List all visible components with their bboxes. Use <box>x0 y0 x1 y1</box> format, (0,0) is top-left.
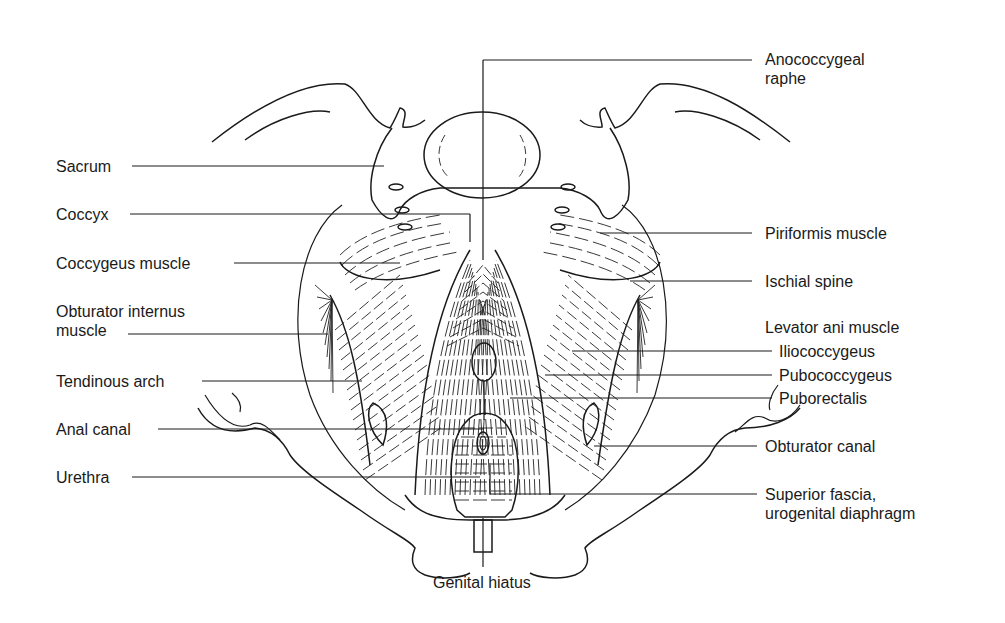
obturator-fiber <box>332 300 333 393</box>
label-iliococcygeus: Iliococcygeus <box>779 342 875 361</box>
label-superior-fascia: Superior fascia, urogenital diaphragm <box>765 485 915 523</box>
label-ischial-spine: Ischial spine <box>765 272 853 291</box>
levator-ani-fibers <box>315 260 655 495</box>
obturator-fiber <box>637 300 638 393</box>
iliococcygeus-fiber <box>532 395 608 450</box>
sacral-foramen <box>551 224 565 230</box>
label-genital-hiatus: Genital hiatus <box>433 573 531 592</box>
iliococcygeus-fiber <box>365 425 445 480</box>
label-coccygeus-muscle: Coccygeus muscle <box>56 254 190 273</box>
obturator-fiber <box>315 285 332 300</box>
label-anococcygeal-raphe: Anococcygeal raphe <box>765 50 865 88</box>
left-tendinous-arch <box>330 295 370 465</box>
iliococcygeus-fiber <box>538 375 612 430</box>
label-sacrum: Sacrum <box>56 157 111 176</box>
label-coccyx: Coccyx <box>56 205 108 224</box>
left-iliac-wing <box>212 84 425 142</box>
iliococcygeus-fiber <box>568 275 632 330</box>
iliococcygeus-fiber <box>523 425 602 480</box>
sacral-foramen <box>398 224 412 230</box>
right-iliac-wing-inner <box>675 111 760 140</box>
label-anal-canal: Anal canal <box>56 420 131 439</box>
label-levator-ani-muscle: Levator ani muscle <box>765 318 899 337</box>
iliococcygeus-fiber <box>359 395 436 450</box>
left-ligament-curve <box>232 393 241 412</box>
sacral-foramen <box>389 184 403 190</box>
iliococcygeus-fiber <box>565 285 630 340</box>
iliococcygeus-fiber <box>526 415 604 470</box>
sacral-promontory-inner <box>439 135 526 178</box>
right-obturator-canal <box>583 403 598 445</box>
iliococcygeus-fiber <box>559 305 626 360</box>
iliococcygeus-fiber <box>541 365 614 420</box>
label-obturator-internus: Obturator internus muscle <box>56 302 185 340</box>
iliococcygeus-fiber <box>353 365 427 420</box>
label-piriformis-muscle: Piriformis muscle <box>765 224 887 243</box>
iliococcygeus-fiber <box>547 345 618 400</box>
label-urethra: Urethra <box>56 468 109 487</box>
right-pubic-outline <box>530 408 800 578</box>
iliococcygeus-fiber <box>337 285 403 340</box>
iliococcygeus-fiber <box>553 325 622 380</box>
label-obturator-canal: Obturator canal <box>765 437 875 456</box>
iliococcygeus-fiber <box>556 315 624 370</box>
iliococcygeus-fiber <box>562 295 628 350</box>
left-wavy-ligament <box>205 395 280 440</box>
iliococcygeus-fiber <box>550 335 620 390</box>
iliococcygeus-fiber <box>544 355 616 410</box>
label-tendinous-arch: Tendinous arch <box>56 372 165 391</box>
sacrum-outline <box>371 128 629 219</box>
sacral-foramen <box>555 207 569 213</box>
iliococcygeus-fiber <box>335 275 400 330</box>
urogenital-fibers <box>455 428 512 500</box>
right-iliac-wing <box>580 84 790 142</box>
iliococcygeus-fiber <box>355 375 430 430</box>
sacral-promontory <box>424 112 540 198</box>
label-pubococcygeus: Pubococcygeus <box>779 366 892 385</box>
puborectalis-fiber <box>475 300 484 495</box>
left-iliac-wing-inner <box>245 111 330 140</box>
label-puborectalis: Puborectalis <box>779 389 867 408</box>
